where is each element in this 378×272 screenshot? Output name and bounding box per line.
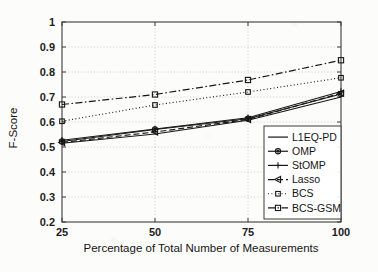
- y-tick-label: 0.7: [40, 91, 55, 103]
- legend-item-label: L1EQ-PD: [292, 131, 337, 143]
- y-tick-label: 0.9: [40, 41, 55, 53]
- x-tick-label: 25: [56, 226, 68, 238]
- x-tick-label: 75: [242, 226, 254, 238]
- series-bcs-gsm: [59, 58, 343, 107]
- y-tick-label: 1: [49, 16, 55, 28]
- series-bcs: [60, 75, 344, 123]
- legend-item-label: BCS-GSM: [292, 202, 341, 214]
- data-point-marker: [246, 90, 251, 95]
- legend-item-label: StOMP: [292, 159, 326, 171]
- y-tick-label: 0.8: [40, 66, 55, 78]
- legend-item-label: BCS: [292, 187, 314, 199]
- legend-item-label: Lasso: [292, 173, 320, 185]
- x-tick-label: 100: [332, 226, 350, 238]
- legend-item-label: OMP: [292, 145, 316, 157]
- x-tick-labels: 255075100: [56, 226, 350, 238]
- y-tick-label: 0.6: [40, 116, 55, 128]
- y-tick-label: 0.5: [40, 141, 55, 153]
- series-line: [62, 60, 341, 104]
- x-axis-title: Percentage of Total Number of Measuremen…: [83, 242, 318, 254]
- y-tick-labels: 0.20.30.40.50.60.70.80.91: [40, 16, 56, 228]
- y-tick-label: 0.2: [40, 216, 55, 228]
- figure-canvas: 0.20.30.40.50.60.70.80.91 255075100 L1EQ…: [0, 0, 378, 272]
- y-tick-label: 0.4: [40, 166, 56, 178]
- y-tick-label: 0.3: [40, 191, 55, 203]
- x-tick-label: 50: [149, 226, 161, 238]
- y-axis-title: F-Score: [7, 108, 19, 149]
- legend[interactable]: L1EQ-PDOMPStOMPLassoBCSBCS-GSM: [264, 126, 341, 219]
- f-score-line-chart: 0.20.30.40.50.60.70.80.91 255075100 L1EQ…: [0, 0, 378, 272]
